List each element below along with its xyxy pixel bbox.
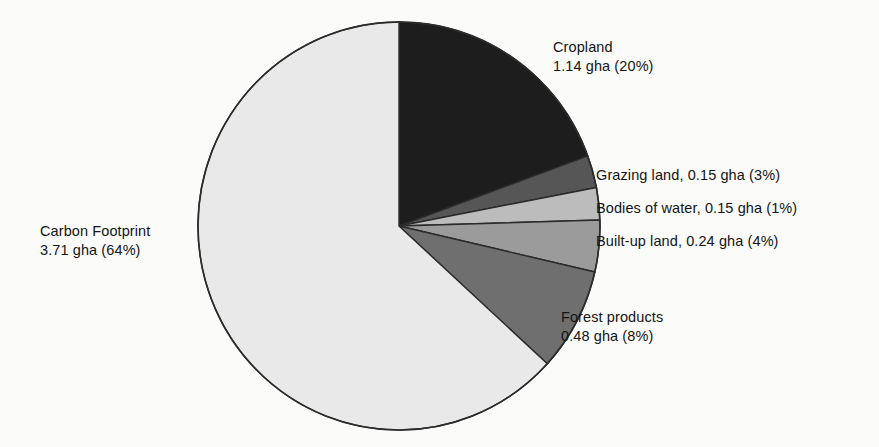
slice-label-cropland-name: Cropland [553,38,654,57]
slice-label-carbon-footprint-name: Carbon Footprint [40,222,150,241]
slice-label-forest-products-value: 0.48 gha (8%) [561,327,663,346]
slice-label-carbon-footprint-value: 3.71 gha (64%) [40,241,150,260]
pie-slice-group [198,22,600,430]
slice-label-grazing-land: Grazing land, 0.15 gha (3%) [596,166,780,185]
pie-chart-figure: Cropland 1.14 gha (20%) Grazing land, 0.… [0,0,879,447]
slice-label-carbon-footprint: Carbon Footprint 3.71 gha (64%) [40,222,150,260]
slice-label-cropland-value: 1.14 gha (20%) [553,57,654,76]
slice-label-bodies-of-water: Bodies of water, 0.15 gha (1%) [596,199,797,218]
slice-label-cropland: Cropland 1.14 gha (20%) [553,38,654,76]
slice-label-built-up-land: Built-up land, 0.24 gha (4%) [596,232,779,251]
slice-label-bodies-of-water-text: Bodies of water, 0.15 gha (1%) [596,199,797,218]
slice-label-forest-products: Forest products 0.48 gha (8%) [561,308,663,346]
slice-label-built-up-land-text: Built-up land, 0.24 gha (4%) [596,232,779,251]
slice-label-grazing-land-text: Grazing land, 0.15 gha (3%) [596,166,780,185]
slice-label-forest-products-name: Forest products [561,308,663,327]
